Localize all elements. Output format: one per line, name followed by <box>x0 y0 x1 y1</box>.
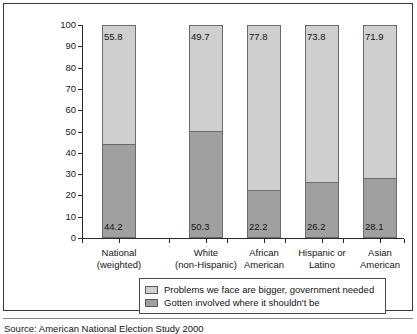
y-axis-tick-label: 10 <box>65 212 76 222</box>
bar-segment-government-needed: 71.9 <box>364 26 396 178</box>
y-axis-tick-label: 80 <box>65 63 76 73</box>
x-axis-tick <box>343 239 344 243</box>
source-note: Source: American National Election Study… <box>4 323 204 334</box>
bar-value-label: 77.8 <box>249 32 268 42</box>
legend-item-label: Problems we face are bigger, government … <box>164 285 374 295</box>
x-axis-tick <box>206 239 207 243</box>
bar-stack: 71.928.1 <box>363 25 397 238</box>
x-axis-tick <box>404 239 405 243</box>
bar-value-label: 22.2 <box>249 222 268 232</box>
legend-swatch-icon <box>145 286 158 294</box>
x-axis-tick <box>264 239 265 243</box>
bar-stack: 55.844.2 <box>102 25 136 238</box>
x-axis-tick <box>119 239 120 243</box>
bar-stack: 49.750.3 <box>189 25 223 238</box>
y-axis-tick <box>78 89 82 90</box>
y-axis-tick <box>78 217 82 218</box>
y-axis-tick <box>78 110 82 111</box>
y-axis-tick-label: 0 <box>71 233 76 243</box>
bar-stack: 77.822.2 <box>247 25 281 238</box>
bar-segment-government-needed: 77.8 <box>248 26 280 190</box>
bar-segment-gotten-involved: 28.1 <box>364 178 396 237</box>
y-axis-line <box>82 25 83 239</box>
x-axis-category-label: AsianAmerican <box>330 247 417 271</box>
bar-value-label: 50.3 <box>191 222 210 232</box>
legend-item: Problems we face are bigger, government … <box>145 283 380 296</box>
y-axis-tick-label: 90 <box>65 42 76 52</box>
x-axis-tick <box>169 239 170 243</box>
y-axis-tick-label: 40 <box>65 148 76 158</box>
bar-value-label: 73.8 <box>307 32 326 42</box>
chart-legend: Problems we face are bigger, government … <box>139 278 386 314</box>
y-axis-tick <box>78 132 82 133</box>
y-axis-tick <box>78 25 82 26</box>
bar-value-label: 49.7 <box>191 32 210 42</box>
x-axis-category-label: National(weighted) <box>69 247 169 271</box>
bar-value-label: 71.9 <box>365 32 384 42</box>
x-axis-tick <box>227 239 228 243</box>
y-axis-tick <box>78 195 82 196</box>
legend-swatch-icon <box>145 299 158 307</box>
y-axis-tick-label: 60 <box>65 105 76 115</box>
y-axis-tick <box>78 68 82 69</box>
source-divider <box>3 318 413 319</box>
x-axis-tick <box>82 239 83 243</box>
x-axis-tick <box>322 239 323 243</box>
y-axis-tick <box>78 46 82 47</box>
bar-segment-gotten-involved: 26.2 <box>306 182 338 237</box>
x-axis-tick <box>380 239 381 243</box>
bar-segment-gotten-involved: 44.2 <box>103 144 135 237</box>
category-label-line: Asian <box>330 247 417 259</box>
bar-value-label: 44.2 <box>104 222 123 232</box>
legend-item: Gotten involved where it shouldn't be <box>145 296 380 309</box>
y-axis-tick-label: 30 <box>65 169 76 179</box>
y-axis-tick-label: 100 <box>60 20 76 30</box>
figure-container: 0102030405060708090100 55.844.249.750.37… <box>3 3 413 311</box>
bar-value-label: 26.2 <box>307 222 326 232</box>
category-label-line: American <box>330 259 417 271</box>
bar-value-label: 55.8 <box>104 32 123 42</box>
x-axis-tick <box>285 239 286 243</box>
bar-segment-gotten-involved: 50.3 <box>190 131 222 237</box>
bar-segment-government-needed: 49.7 <box>190 26 222 131</box>
bar-stack: 73.826.2 <box>305 25 339 238</box>
category-label-line: National <box>69 247 169 259</box>
y-axis-tick-label: 50 <box>65 127 76 137</box>
bar-value-label: 28.1 <box>365 222 384 232</box>
y-axis-tick <box>78 153 82 154</box>
bar-segment-government-needed: 55.8 <box>103 26 135 144</box>
y-axis-tick-label: 70 <box>65 84 76 94</box>
bar-segment-government-needed: 73.8 <box>306 26 338 182</box>
y-axis-tick <box>78 174 82 175</box>
y-axis-tick-label: 20 <box>65 191 76 201</box>
x-axis-line <box>82 238 404 239</box>
legend-item-label: Gotten involved where it shouldn't be <box>164 298 320 308</box>
category-label-line: (weighted) <box>69 259 169 271</box>
bar-segment-gotten-involved: 22.2 <box>248 190 280 237</box>
plot-area: 0102030405060708090100 55.844.249.750.37… <box>82 25 404 239</box>
